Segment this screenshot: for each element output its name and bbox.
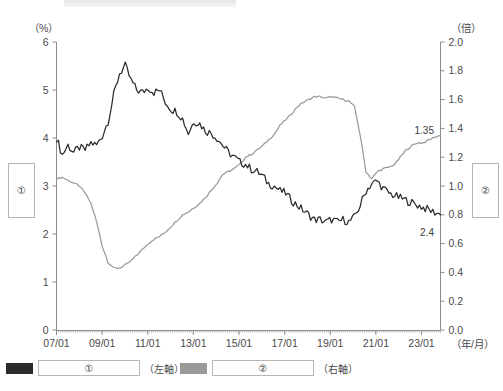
svg-text:2.0: 2.0 xyxy=(449,36,464,48)
right-axis-unit-label: （倍） xyxy=(451,22,481,34)
legend-axis-series-2: （右軸） xyxy=(318,361,354,376)
svg-text:0.4: 0.4 xyxy=(449,266,464,278)
svg-text:1.6: 1.6 xyxy=(449,93,464,105)
svg-text:1.4: 1.4 xyxy=(449,122,464,134)
svg-text:0: 0 xyxy=(43,324,49,336)
svg-text:15/01: 15/01 xyxy=(226,337,252,349)
svg-text:1: 1 xyxy=(43,276,49,288)
svg-text:09/01: 09/01 xyxy=(89,337,115,349)
chart-legend: ① （左軸） ② （右軸） xyxy=(6,358,306,378)
legend-key-series-1: ① xyxy=(38,360,141,376)
series-1-line xyxy=(57,62,441,225)
series-2-line xyxy=(57,96,441,268)
svg-text:13/01: 13/01 xyxy=(180,337,206,349)
legend-item-1: ① （左軸） xyxy=(6,360,180,376)
legend-swatch-series-1 xyxy=(6,363,33,374)
svg-text:3: 3 xyxy=(43,180,49,192)
left-axis-series-badge: ① xyxy=(8,163,35,218)
legend-axis-series-1: （左軸） xyxy=(144,361,180,376)
legend-swatch-series-2 xyxy=(180,363,207,374)
legend-item-2: ② （右軸） xyxy=(180,360,354,376)
svg-text:07/01: 07/01 xyxy=(43,337,69,349)
svg-text:11/01: 11/01 xyxy=(135,337,161,349)
svg-text:19/01: 19/01 xyxy=(317,337,343,349)
svg-text:23/01: 23/01 xyxy=(408,337,434,349)
svg-text:17/01: 17/01 xyxy=(271,337,297,349)
svg-text:0.2: 0.2 xyxy=(449,295,464,307)
left-axis-unit-label: （%） xyxy=(29,22,58,34)
left-axis-ticks: 0123456 xyxy=(43,36,57,336)
svg-text:1.0: 1.0 xyxy=(449,180,464,192)
svg-text:4: 4 xyxy=(43,132,49,144)
chart-container: 0123456 0.00.20.40.60.81.01.21.41.61.82.… xyxy=(0,0,503,391)
right-axis-ticks: 0.00.20.40.60.81.01.21.41.61.82.0 xyxy=(441,36,464,336)
svg-text:1.2: 1.2 xyxy=(449,151,464,163)
svg-text:0.6: 0.6 xyxy=(449,237,464,249)
series-1-end-annotation: 2.4 xyxy=(420,227,434,238)
series-2-end-annotation: 1.35 xyxy=(415,125,435,136)
chart-svg: 0123456 0.00.20.40.60.81.01.21.41.61.82.… xyxy=(0,0,503,391)
x-axis-ticks: 07/0109/0111/0113/0115/0117/0119/0121/01… xyxy=(43,330,440,349)
svg-text:0.0: 0.0 xyxy=(449,324,464,336)
svg-text:2: 2 xyxy=(43,228,49,240)
x-axis-unit-label: （年/月） xyxy=(451,338,494,350)
svg-text:21/01: 21/01 xyxy=(363,337,389,349)
svg-text:0.8: 0.8 xyxy=(449,208,464,220)
svg-text:5: 5 xyxy=(43,84,49,96)
right-axis-series-badge: ② xyxy=(472,163,499,218)
legend-key-series-2: ② xyxy=(212,360,315,376)
svg-text:1.8: 1.8 xyxy=(449,64,464,76)
svg-text:6: 6 xyxy=(43,36,49,48)
